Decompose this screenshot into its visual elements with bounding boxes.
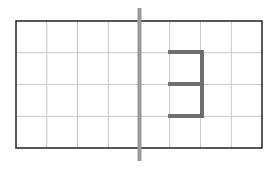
grid-diagram [0,0,271,171]
three-shape-figure [170,52,202,116]
